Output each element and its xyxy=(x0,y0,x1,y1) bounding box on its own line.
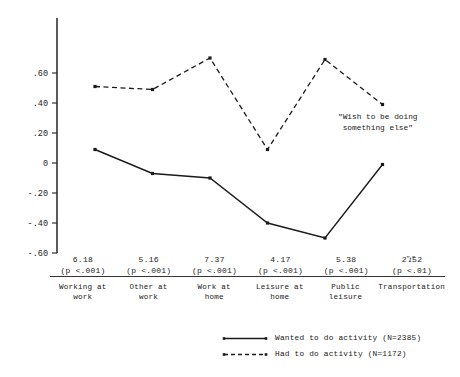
stats-cell: 5.38(p <.001) xyxy=(313,252,379,276)
data-point-marker xyxy=(208,56,211,59)
t-statistic-symbol: "t" xyxy=(406,255,415,264)
line-chart-plot: .60.40.200-.20-.40-.60 xyxy=(0,0,460,377)
stats-cell: 6.18(p <.001) xyxy=(50,252,116,276)
legend-entry: Wanted to do activity (N=2385) xyxy=(222,330,421,346)
category-label-line2: leisure xyxy=(329,293,362,301)
legend-label: Had to do activity (N=1172) xyxy=(275,350,407,358)
category-label: Working atwork xyxy=(50,280,116,302)
data-series-group xyxy=(93,56,384,239)
data-point-marker xyxy=(323,236,326,239)
stats-cell: 7.37(p <.001) xyxy=(182,252,248,276)
stats-p-value: (p <.001) xyxy=(116,265,182,276)
chart-legend: Wanted to do activity (N=2385)Had to do … xyxy=(222,330,421,362)
legend-line-swatch xyxy=(222,334,268,343)
category-label: Work athome xyxy=(181,280,247,302)
category-label: Publicleisure xyxy=(313,280,379,302)
data-point-marker xyxy=(151,88,154,91)
y-axis-tick-label: -.40 xyxy=(28,219,48,229)
data-point-marker xyxy=(266,148,269,151)
data-point-marker xyxy=(208,176,211,179)
category-label-line2: work xyxy=(73,293,92,301)
category-label: Leisure athome xyxy=(247,280,313,302)
y-axis-ticks: .60.40.200-.20-.40-.60 xyxy=(28,69,57,259)
y-axis-tick-label: .40 xyxy=(33,99,48,109)
category-label-line1: Working at xyxy=(59,283,107,291)
stats-t-value: 7.37 xyxy=(182,254,248,265)
y-axis-tick-label: 0 xyxy=(43,159,48,169)
data-point-marker xyxy=(323,58,326,61)
y-axis-tick-label: .60 xyxy=(33,69,48,79)
stats-t-value: 4.17 xyxy=(247,254,313,265)
stats-table: 6.18(p <.001)5.16(p <.001)7.37(p <.001)4… xyxy=(50,252,445,302)
data-point-marker xyxy=(151,172,154,175)
data-point-marker xyxy=(266,221,269,224)
wish-annotation-line1: "Wish to be doing xyxy=(338,113,418,121)
wish-annotation-line2: something else" xyxy=(343,124,413,132)
chart-figure: .60.40.200-.20-.40-.60 "Wish to be doing… xyxy=(0,0,460,377)
y-axis-tick-label: -.20 xyxy=(28,189,48,199)
stats-t-value: 5.38 xyxy=(313,254,379,265)
stats-cell: 4.17(p <.001) xyxy=(247,252,313,276)
legend-line-swatch xyxy=(222,350,268,359)
category-label-line1: Public xyxy=(331,283,360,291)
data-point-marker xyxy=(381,103,384,106)
stats-p-value: (p <.01) xyxy=(379,265,445,276)
stats-p-value: (p <.001) xyxy=(182,265,248,276)
legend-label: Wanted to do activity (N=2385) xyxy=(275,334,421,342)
y-axis-tick-label: -.60 xyxy=(28,249,48,259)
category-labels-row: Working atworkOther atworkWork athomeLei… xyxy=(50,277,445,302)
stats-t-value: 6.18 xyxy=(50,254,116,265)
wish-annotation: "Wish to be doing something else" xyxy=(338,112,418,134)
legend-entry: Had to do activity (N=1172) xyxy=(222,346,421,362)
stats-p-value: (p <.001) xyxy=(313,265,379,276)
stats-t-value: 5.16 xyxy=(116,254,182,265)
category-label: Other atwork xyxy=(116,280,182,302)
data-point-marker xyxy=(381,163,384,166)
stats-cell: 5.16(p <.001) xyxy=(116,252,182,276)
stats-row: 6.18(p <.001)5.16(p <.001)7.37(p <.001)4… xyxy=(50,252,445,276)
data-point-marker xyxy=(93,148,96,151)
category-label-line1: Other at xyxy=(129,283,167,291)
series-line-2 xyxy=(95,58,383,150)
category-label-line1: Work at xyxy=(198,283,231,291)
category-label-line1: Transportation xyxy=(378,283,445,291)
category-label-line2: work xyxy=(139,293,158,301)
category-label-line1: Leisure at xyxy=(256,283,304,291)
series-line-1 xyxy=(95,150,383,239)
category-label: Transportation xyxy=(378,280,445,302)
data-point-marker xyxy=(93,85,96,88)
stats-p-value: (p <.001) xyxy=(247,265,313,276)
y-axis-tick-label: .20 xyxy=(33,129,48,139)
category-label-line2: home xyxy=(270,293,289,301)
stats-p-value: (p <.001) xyxy=(50,265,116,276)
category-label-line2: home xyxy=(205,293,224,301)
